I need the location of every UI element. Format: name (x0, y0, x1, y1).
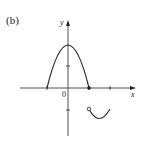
open-endpoint-circle (87, 107, 91, 111)
closed-endpoint-dot (87, 86, 91, 90)
graph-figure (0, 0, 142, 148)
panel-label: (b) (6, 15, 19, 26)
y-axis-label: y (60, 19, 64, 27)
y-axis-arrow-icon (66, 20, 70, 26)
arc-curve (89, 109, 110, 119)
x-axis-label: x (131, 91, 135, 99)
origin-label: 0 (62, 91, 66, 99)
